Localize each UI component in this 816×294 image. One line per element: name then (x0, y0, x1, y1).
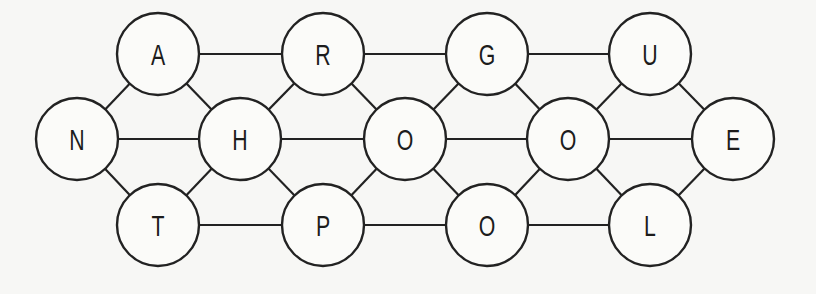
node-label: O (560, 124, 577, 156)
node-label: A (151, 39, 165, 71)
node-h: H (199, 98, 281, 180)
node-label: O (397, 124, 414, 156)
node-g: G (446, 13, 528, 95)
node-u: U (609, 13, 691, 95)
node-n: N (36, 98, 118, 180)
node-label: N (69, 124, 84, 156)
node-o: O (527, 98, 609, 180)
node-t: T (117, 184, 199, 266)
node-label: L (644, 210, 656, 242)
node-label: R (315, 39, 330, 71)
node-r: R (282, 13, 364, 95)
node-o: O (446, 184, 528, 266)
letter-graph-diagram: ARGUNHOOETPOL (0, 0, 816, 294)
node-label: E (726, 124, 740, 156)
node-label: P (316, 210, 330, 242)
node-label: U (642, 39, 657, 71)
node-o: O (364, 98, 446, 180)
node-a: A (117, 13, 199, 95)
node-l: L (609, 184, 691, 266)
node-label: G (479, 39, 496, 71)
node-p: P (282, 184, 364, 266)
node-label: T (151, 210, 164, 242)
node-e: E (692, 98, 774, 180)
node-label: H (232, 124, 247, 156)
node-label: O (479, 210, 496, 242)
